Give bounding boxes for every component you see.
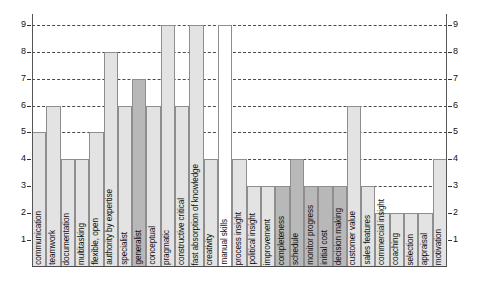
bar-label: pragmatic — [163, 230, 171, 265]
bar-label: selection — [407, 234, 415, 265]
y-tick-mark-right-9 — [448, 25, 452, 26]
y-tick-mark-right-4 — [448, 159, 452, 160]
bar-label: communication — [35, 211, 43, 265]
bar-label: authority by expertise — [106, 189, 114, 265]
y-tick-mark-left-4 — [27, 159, 31, 160]
bar-label: sales features — [364, 215, 372, 265]
y-tick-mark-right-2 — [448, 213, 452, 214]
y-tick-mark-left-2 — [27, 213, 31, 214]
plot-area: communicationteamworkdocumentationmultit… — [32, 14, 447, 267]
bar-label: appraisal — [421, 233, 429, 265]
y-tick-mark-right-3 — [448, 186, 452, 187]
bar-label: customer value — [349, 211, 357, 265]
bar-label: decision making — [335, 208, 343, 265]
bar-label: motivation — [435, 229, 443, 265]
y-tick-label-left-1: 1 — [21, 235, 26, 244]
bar-label: manual skills — [221, 219, 229, 265]
y-tick-label-right-9: 9 — [453, 20, 458, 29]
bar-label: documentation — [63, 213, 71, 265]
bars-group: communicationteamworkdocumentationmultit… — [32, 14, 447, 267]
y-tick-label-left-8: 8 — [21, 47, 26, 56]
y-tick-label-left-3: 3 — [21, 181, 26, 190]
bar-label: completeness — [278, 216, 286, 265]
bar-label: constructive critical — [178, 198, 186, 265]
x-axis — [32, 266, 447, 267]
y-axis-left — [32, 14, 33, 267]
bar-label: process insight — [235, 212, 243, 265]
bar-label: schedule — [292, 233, 300, 265]
bar-label: flexible, open — [92, 218, 100, 265]
y-tick-mark-right-7 — [448, 79, 452, 80]
y-tick-label-left-7: 7 — [21, 74, 26, 83]
y-tick-label-right-3: 3 — [453, 181, 458, 190]
bar-label: political insight — [249, 213, 257, 265]
y-tick-label-left-9: 9 — [21, 20, 26, 29]
y-tick-label-right-1: 1 — [453, 235, 458, 244]
y-tick-mark-right-8 — [448, 52, 452, 53]
y-tick-label-right-4: 4 — [453, 154, 458, 163]
y-tick-label-right-5: 5 — [453, 127, 458, 136]
bar-label: generalist — [135, 230, 143, 265]
bar-label: improvement — [264, 219, 272, 265]
bar-label: conceptual — [149, 226, 157, 265]
y-tick-mark-right-6 — [448, 106, 452, 107]
y-tick-label-right-6: 6 — [453, 101, 458, 110]
bar-label: teamwork — [49, 230, 57, 265]
y-tick-mark-left-5 — [27, 132, 31, 133]
y-tick-mark-left-9 — [27, 25, 31, 26]
bar-label: creativity — [206, 234, 214, 265]
y-tick-mark-left-8 — [27, 52, 31, 53]
y-tick-label-right-7: 7 — [453, 74, 458, 83]
y-tick-mark-left-1 — [27, 240, 31, 241]
y-tick-label-right-8: 8 — [453, 47, 458, 56]
bar-label: commercial insight — [378, 199, 386, 265]
y-axis-right — [446, 14, 447, 267]
y-tick-label-left-2: 2 — [21, 208, 26, 217]
y-tick-label-left-5: 5 — [21, 127, 26, 136]
bar-label: multitasking — [78, 223, 86, 265]
bar-label: initial cost — [321, 230, 329, 265]
y-tick-mark-right-5 — [448, 132, 452, 133]
y-tick-mark-left-6 — [27, 106, 31, 107]
bar-label: coaching — [392, 233, 400, 265]
y-tick-mark-left-3 — [27, 186, 31, 187]
y-tick-label-left-6: 6 — [21, 101, 26, 110]
bar-chart: communicationteamworkdocumentationmultit… — [0, 0, 479, 285]
plot-inner: communicationteamworkdocumentationmultit… — [32, 14, 447, 267]
bar-label: monitor progress — [307, 205, 315, 265]
y-tick-mark-right-1 — [448, 240, 452, 241]
y-tick-label-right-2: 2 — [453, 208, 458, 217]
y-tick-mark-left-7 — [27, 79, 31, 80]
y-tick-label-left-4: 4 — [21, 154, 26, 163]
bar-label: specialist — [121, 232, 129, 265]
bar-label: fast absorption of knowledge — [192, 164, 200, 265]
